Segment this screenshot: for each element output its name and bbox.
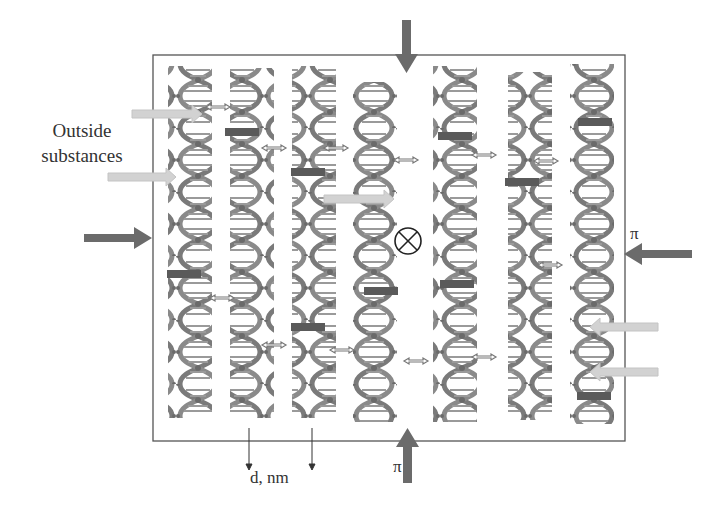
double-arrow-icon <box>394 157 418 163</box>
diagram-canvas <box>0 0 727 514</box>
dna-helices <box>168 64 614 424</box>
dna-helix-icon <box>508 72 552 420</box>
outside-substances-label: Outside substances <box>22 118 142 168</box>
pressure-label-bottom: π <box>393 457 402 477</box>
dna-helix-icon <box>168 66 212 418</box>
substance-arrow-icon <box>590 363 658 381</box>
double-arrow-icon <box>206 104 230 110</box>
substance-arrow-icon <box>132 105 202 123</box>
dna-helix-icon <box>353 82 397 422</box>
substance-arrow-icon <box>590 318 658 336</box>
substance-arrow-icon <box>108 168 176 186</box>
dna-helix-icon <box>433 66 477 422</box>
pressure-arrow-left-icon <box>624 243 692 265</box>
spacing-label: d, nm <box>250 468 289 488</box>
pressure-arrow-right-icon <box>84 227 152 249</box>
pressure-label-right: π <box>630 224 639 244</box>
dna-helix-icon <box>292 66 336 418</box>
double-arrow-icon <box>330 347 354 353</box>
spacing-markers <box>246 428 315 470</box>
double-arrow-icon <box>472 152 496 158</box>
dna-helix-icon <box>230 68 274 418</box>
diagram: Outside substances π π d, nm <box>0 0 727 514</box>
double-arrow-icon <box>404 358 428 364</box>
center-marker-icon <box>395 228 421 254</box>
double-arrow-icon <box>472 354 496 360</box>
double-arrow-icon <box>210 295 234 301</box>
pressure-arrow-down-icon <box>395 20 418 73</box>
